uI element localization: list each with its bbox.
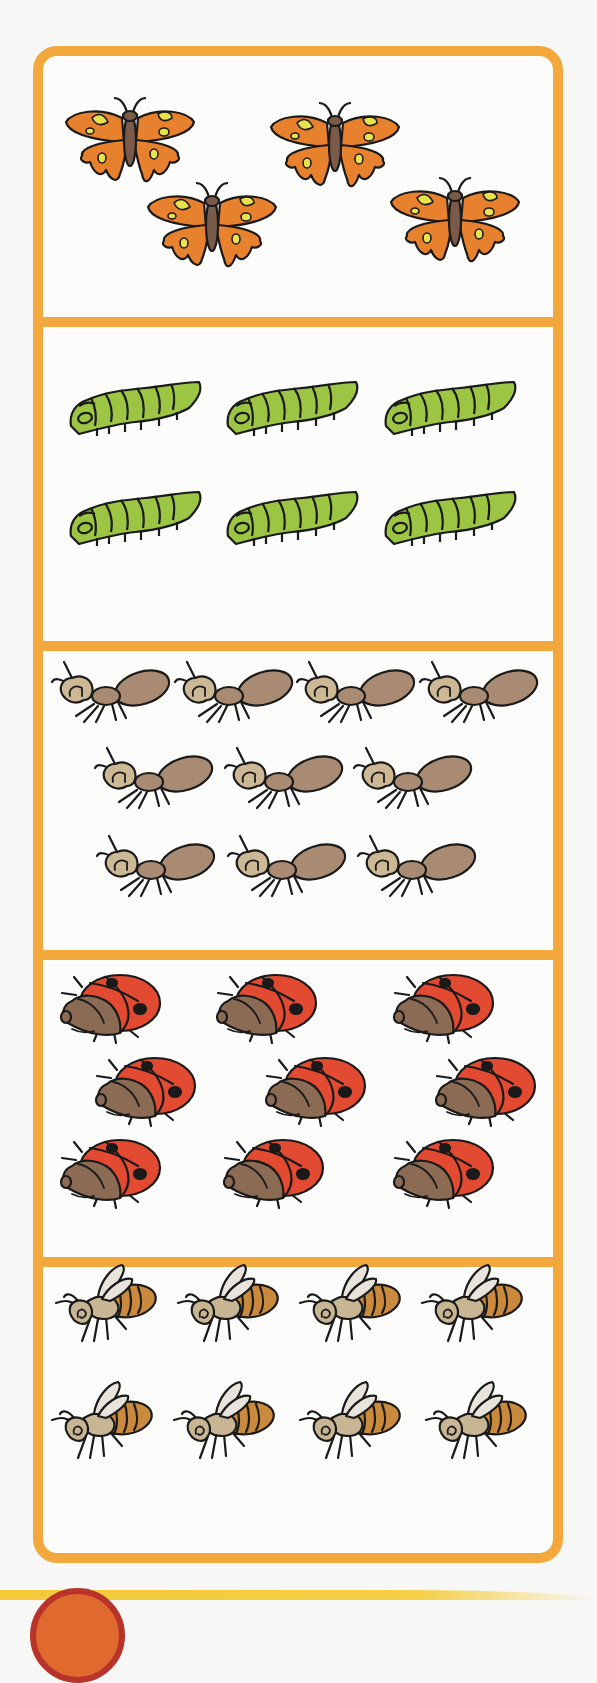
bee-item [297, 1380, 407, 1464]
ladybug-item [92, 1050, 202, 1126]
ant-icon [95, 746, 215, 810]
ladybug-icon [220, 1132, 330, 1208]
bee-item [423, 1380, 533, 1464]
butterflie-item [267, 100, 403, 190]
caterpillar-item [380, 380, 520, 440]
ladybug-icon [390, 1132, 500, 1208]
bottom-decoration-circle [30, 1588, 125, 1683]
ant-icon [175, 660, 295, 724]
ant-icon [354, 746, 474, 810]
ladybug-item [213, 967, 323, 1043]
butterfly-icon [267, 100, 403, 190]
ant-item [52, 660, 172, 724]
ladybug-icon [262, 1050, 372, 1126]
ladybug-item [432, 1050, 542, 1126]
ant-item [297, 660, 417, 724]
butterfly-icon [144, 180, 280, 270]
caterpillar-icon [222, 490, 362, 550]
ladybug-item [220, 1132, 330, 1208]
ladybug-icon [213, 967, 323, 1043]
ant-icon [228, 834, 348, 898]
butterflie-item [144, 180, 280, 270]
butterfly-icon [387, 175, 523, 265]
bee-item [49, 1380, 159, 1464]
ant-icon [420, 660, 540, 724]
ladybug-item [262, 1050, 372, 1126]
bee-icon [419, 1263, 529, 1347]
section-divider [33, 317, 563, 327]
caterpillar-icon [65, 490, 205, 550]
bee-icon [53, 1263, 163, 1347]
bee-item [171, 1380, 281, 1464]
ladybug-item [57, 1132, 167, 1208]
section-divider [33, 950, 563, 960]
bee-item [297, 1263, 407, 1347]
ladybug-item [57, 967, 167, 1043]
ant-item [354, 746, 474, 810]
ant-item [420, 660, 540, 724]
bee-icon [297, 1263, 407, 1347]
bee-item [419, 1263, 529, 1347]
bee-icon [175, 1263, 285, 1347]
caterpillar-item [222, 380, 362, 440]
ladybug-icon [92, 1050, 202, 1126]
butterflie-item [62, 95, 198, 185]
ladybug-item [390, 1132, 500, 1208]
caterpillar-item [65, 490, 205, 550]
bee-icon [297, 1380, 407, 1464]
ant-item [175, 660, 295, 724]
ant-icon [97, 834, 217, 898]
caterpillar-icon [380, 490, 520, 550]
ant-icon [358, 834, 478, 898]
caterpillar-item [222, 490, 362, 550]
butterfly-icon [62, 95, 198, 185]
bee-item [175, 1263, 285, 1347]
ant-item [95, 746, 215, 810]
butterflie-item [387, 175, 523, 265]
bee-item [53, 1263, 163, 1347]
bee-icon [171, 1380, 281, 1464]
caterpillar-item [380, 490, 520, 550]
ladybug-icon [57, 1132, 167, 1208]
ladybug-icon [57, 967, 167, 1043]
ant-icon [52, 660, 172, 724]
section-divider [33, 641, 563, 651]
ant-item [225, 746, 345, 810]
caterpillar-icon [380, 380, 520, 440]
ladybug-item [390, 967, 500, 1043]
bee-icon [423, 1380, 533, 1464]
caterpillar-item [65, 380, 205, 440]
caterpillar-icon [222, 380, 362, 440]
ant-icon [297, 660, 417, 724]
ant-icon [225, 746, 345, 810]
ant-item [358, 834, 478, 898]
caterpillar-icon [65, 380, 205, 440]
ant-item [97, 834, 217, 898]
bee-icon [49, 1380, 159, 1464]
ladybug-icon [432, 1050, 542, 1126]
ant-item [228, 834, 348, 898]
ladybug-icon [390, 967, 500, 1043]
